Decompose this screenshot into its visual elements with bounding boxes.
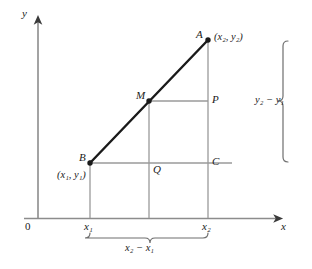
origin-label: 0 bbox=[25, 221, 31, 232]
point-b-dot bbox=[87, 160, 92, 165]
point-c-label: C bbox=[212, 156, 219, 167]
point-m-label: M bbox=[136, 90, 145, 101]
diagram-canvas bbox=[0, 0, 312, 269]
point-a-coordinates: (x₂, y₂) bbox=[214, 32, 243, 43]
y-axis-label: y bbox=[22, 8, 27, 19]
point-q-label: Q bbox=[153, 164, 161, 175]
x-axis-label: x bbox=[281, 221, 286, 232]
vertical-brace-label: y₂ − y₁ bbox=[255, 95, 284, 106]
point-b-coordinates: (x₁, y₁) bbox=[57, 170, 86, 181]
x-tick-x2-label: x₂ bbox=[202, 221, 211, 232]
horizontal-brace-label: x₂ − x₁ bbox=[125, 243, 154, 254]
point-a-label: A bbox=[196, 29, 203, 40]
geometry-diagram: y x 0 x₁ x₂ A (x₂, y₂) B (x₁, y₁) M P Q … bbox=[0, 0, 312, 269]
point-a-dot bbox=[205, 37, 210, 42]
point-b-label: B bbox=[79, 152, 86, 163]
point-m-dot bbox=[146, 98, 151, 103]
point-p-label: P bbox=[212, 94, 219, 105]
x-tick-x1-label: x₁ bbox=[84, 221, 93, 232]
